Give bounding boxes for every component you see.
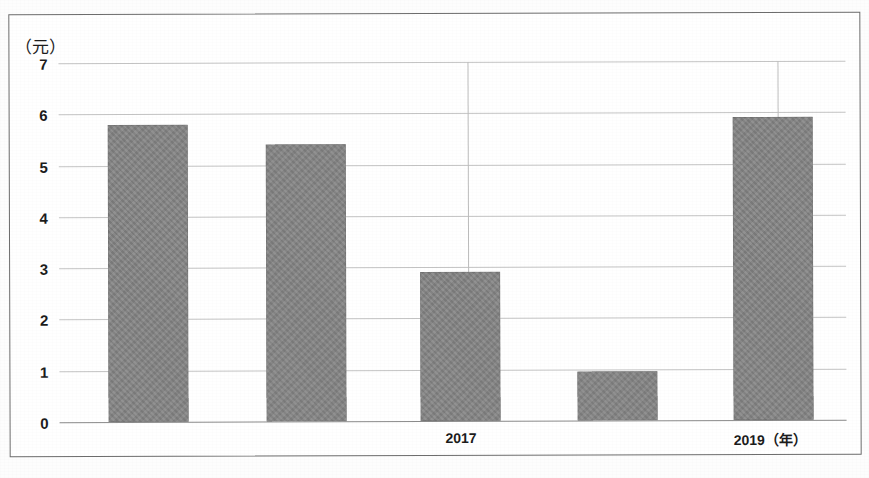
plot-area: 7 6 5 4 3 2 1	[58, 61, 846, 422]
bar-4[interactable]	[577, 372, 657, 421]
category-separator-2017	[468, 62, 470, 272]
ytick-label-3: 3	[40, 261, 48, 278]
ytick-label-2: 2	[40, 312, 48, 329]
gridline-7: 7	[58, 61, 845, 64]
xlabel-2019-with-unit: 2019（年）	[734, 429, 807, 449]
y-axis-unit-label: （元）	[15, 33, 66, 58]
ytick-label-0: 0	[40, 415, 48, 432]
bar-5[interactable]: 2019（年）	[732, 117, 813, 420]
ytick-label-5: 5	[39, 158, 47, 175]
ytick-label-6: 6	[39, 107, 47, 124]
gridline-6: 6	[59, 112, 846, 115]
scanned-page-background: （元） 7 6 5 4 3 2	[0, 0, 869, 478]
ytick-label-4: 4	[40, 210, 48, 227]
bar-3[interactable]: 2017	[420, 272, 501, 421]
ytick-label-7: 7	[39, 56, 47, 73]
category-separator-2019	[778, 61, 779, 119]
bar-1[interactable]	[107, 124, 188, 422]
figure-frame: （元） 7 6 5 4 3 2	[8, 12, 861, 458]
bar-2[interactable]	[266, 144, 347, 421]
ytick-label-1: 1	[40, 363, 48, 380]
bar-chart: （元） 7 6 5 4 3 2	[9, 13, 862, 459]
xlabel-2017: 2017	[445, 430, 476, 446]
